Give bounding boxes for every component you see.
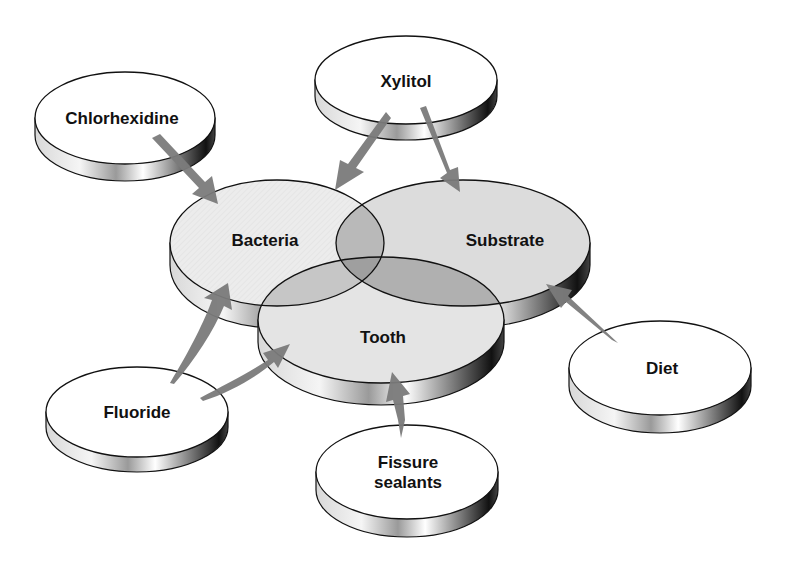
arrow-diet-substrate [546, 284, 618, 343]
label-substrate: Substrate [466, 231, 544, 250]
label-tooth: Tooth [360, 328, 406, 347]
venn-core [170, 180, 590, 383]
label-bacteria: Bacteria [231, 231, 299, 250]
label-chlorhexidine: Chlorhexidine [65, 109, 178, 128]
label-fluoride: Fluoride [103, 403, 170, 422]
diagram-canvas: Bacteria Substrate Tooth Chlorhexidine X… [0, 0, 788, 563]
label-xylitol: Xylitol [380, 72, 431, 91]
label-diet: Diet [646, 359, 678, 378]
label-fissure-line2: sealants [374, 473, 442, 492]
label-fissure-line1: Fissure [378, 453, 438, 472]
